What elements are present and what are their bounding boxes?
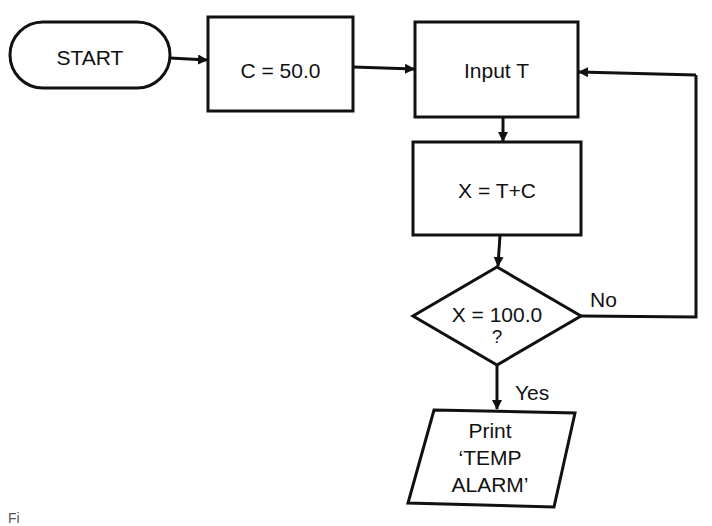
start-label: START [10, 46, 170, 69]
yes-edge-label: Yes [515, 381, 549, 404]
output-label-line1: Print [420, 419, 560, 442]
output-label-line3: ALARM’ [420, 473, 560, 496]
arrow-start-to-init [170, 58, 207, 60]
decision-label-line1: X = 100.0 [413, 303, 581, 326]
decision-label-line2: ? [413, 327, 581, 348]
output-label-line2: ‘TEMP [420, 446, 560, 469]
arrow-init-to-input [353, 67, 414, 69]
arrow-no-loop-to-input [579, 72, 696, 75]
no-edge-label: No [590, 288, 617, 311]
init-label: C = 50.0 [208, 59, 353, 82]
arrow-compute-to-decision [498, 235, 500, 266]
arrow-decision-no-loop [581, 75, 696, 317]
compute-label: X = T+C [413, 179, 581, 202]
figure-caption: Fi [8, 510, 20, 526]
input-label: Input T [415, 59, 578, 82]
